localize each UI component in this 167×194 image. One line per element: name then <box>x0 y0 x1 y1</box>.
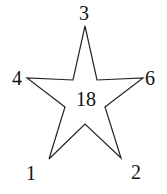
label-bottom-right: 2 <box>131 162 141 182</box>
label-bottom-left: 1 <box>26 163 36 183</box>
star-diagram: 3 4 6 18 1 2 <box>0 0 167 194</box>
label-right: 6 <box>145 68 155 88</box>
label-top: 3 <box>79 3 89 23</box>
center-value: 18 <box>76 89 96 109</box>
label-left: 4 <box>12 68 22 88</box>
